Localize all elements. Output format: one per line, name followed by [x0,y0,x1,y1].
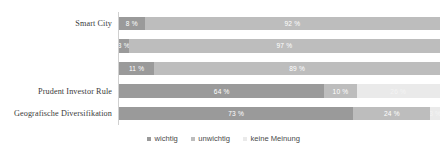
segment-value-label: 3 % [119,42,129,49]
legend-swatch-icon [191,137,195,141]
segment-value-label: 26 % [390,88,406,95]
bar-segment-unwichtig: 24 % [353,107,430,120]
category-label: Geografische Diversifikation [0,102,112,125]
category-label [0,57,112,80]
legend-label: unwichtig [198,134,230,143]
bar-segment-wichtig: 11 % [119,62,154,75]
category-label: Smart City [0,12,112,35]
bar-segment-wichtig: 73 % [119,107,353,120]
bar-row: Geografische Diversifikation73 %24 %3 % [0,102,447,125]
bar-row: 3 %97 % [0,35,447,58]
category-label [0,35,112,58]
bar-segment-wichtig: 64 % [119,84,324,97]
segment-value-label: 89 % [289,65,305,72]
stacked-bar: 8 %92 % [119,17,440,30]
legend-swatch-icon [243,137,247,141]
bar-segment-unwichtig: 10 % [324,84,356,97]
bar-row: 11 %89 % [0,57,447,80]
bar-rows: Smart City8 %92 %3 %97 %11 %89 %Prudent … [0,12,447,125]
stacked-bar: 64 %10 %26 % [119,84,440,97]
stacked-bar-chart: Smart City8 %92 %3 %97 %11 %89 %Prudent … [0,0,447,157]
category-label: Prudent Investor Rule [0,80,112,103]
bar-segment-wichtig: 3 % [119,39,129,52]
stacked-bar: 3 %97 % [119,39,440,52]
segment-value-label: 8 % [126,20,138,27]
segment-value-label: 24 % [384,110,400,117]
legend-item[interactable]: wichtig [147,134,178,143]
segment-value-label: 11 % [129,65,144,72]
segment-value-label: 73 % [228,110,244,117]
chart-legend: wichtigunwichtigkeine Meinung [0,134,447,143]
legend-item[interactable]: unwichtig [191,134,230,143]
bar-row: Prudent Investor Rule64 %10 %26 % [0,80,447,103]
bar-segment-unwichtig: 92 % [145,17,440,30]
segment-value-label: 92 % [284,20,300,27]
segment-value-label: 97 % [276,42,292,49]
bar-segment-unwichtig: 89 % [154,62,440,75]
legend-label: wichtig [155,134,178,143]
segment-value-label: 64 % [214,88,230,95]
bar-segment-wichtig: 8 % [119,17,145,30]
stacked-bar: 73 %24 %3 % [119,107,440,120]
bar-segment-keine-meinung: 3 % [430,107,440,120]
legend-label: keine Meinung [250,134,299,143]
legend-item[interactable]: keine Meinung [243,134,300,143]
stacked-bar: 11 %89 % [119,62,440,75]
bar-segment-keine-meinung: 26 % [357,84,440,97]
bar-row: Smart City8 %92 % [0,12,447,35]
legend-swatch-icon [147,137,151,141]
segment-value-label: 3 % [430,110,440,117]
segment-value-label: 10 % [333,88,349,95]
bar-segment-unwichtig: 97 % [129,39,440,52]
